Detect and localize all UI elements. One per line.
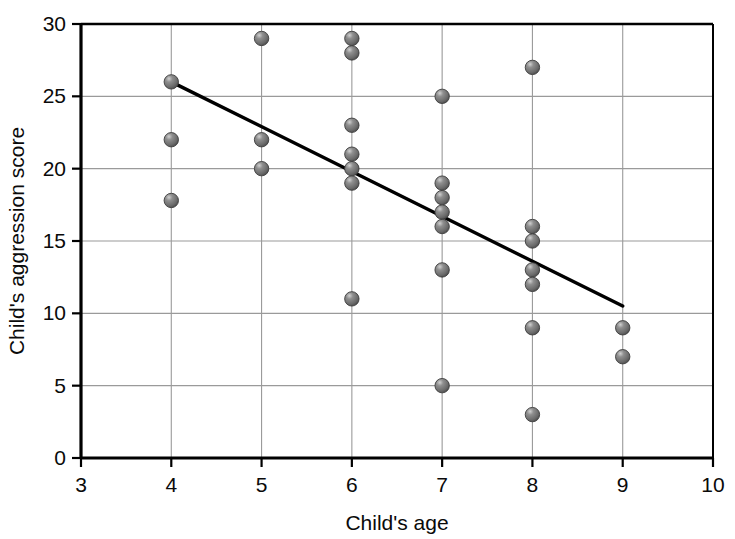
x-tick-label: 3 (75, 473, 87, 496)
scatter-plot-figure: 051015202530345678910 Child's age Child'… (0, 0, 735, 539)
data-points-group (164, 31, 630, 422)
data-point (345, 176, 359, 190)
x-tick-label: 10 (701, 473, 724, 496)
y-tick-label: 25 (43, 84, 66, 107)
data-point (345, 46, 359, 60)
data-point (525, 407, 539, 421)
x-axis-title: Child's age (345, 511, 448, 534)
data-point (435, 190, 449, 204)
data-point (435, 219, 449, 233)
plot-canvas: 051015202530345678910 Child's age Child'… (0, 0, 735, 539)
data-point (435, 378, 449, 392)
x-tick-label: 5 (256, 473, 268, 496)
data-point (345, 147, 359, 161)
tick-marks-group (72, 24, 713, 467)
x-tick-label: 7 (436, 473, 448, 496)
data-point (345, 31, 359, 45)
data-point (345, 161, 359, 175)
data-point (254, 133, 268, 147)
data-point (254, 161, 268, 175)
gridlines-group (81, 24, 713, 458)
y-tick-label: 5 (54, 374, 66, 397)
y-tick-label: 0 (54, 446, 66, 469)
data-point (525, 277, 539, 291)
data-point (435, 205, 449, 219)
data-point (254, 31, 268, 45)
x-tick-label: 6 (346, 473, 358, 496)
trendline-group (171, 82, 622, 306)
data-point (345, 118, 359, 132)
data-point (164, 133, 178, 147)
x-tick-label: 4 (165, 473, 177, 496)
y-tick-label: 10 (43, 301, 66, 324)
data-point (525, 60, 539, 74)
data-point (435, 263, 449, 277)
data-point (525, 219, 539, 233)
data-point (525, 263, 539, 277)
y-axis-title: Child's aggression score (5, 127, 28, 355)
data-point (345, 292, 359, 306)
data-point (616, 350, 630, 364)
x-tick-label: 9 (617, 473, 629, 496)
data-point (435, 89, 449, 103)
data-point (616, 321, 630, 335)
y-tick-label: 20 (43, 157, 66, 180)
y-tick-label: 15 (43, 229, 66, 252)
data-point (435, 176, 449, 190)
data-point (525, 234, 539, 248)
regression-trendline (171, 82, 622, 306)
y-tick-label: 30 (43, 12, 66, 35)
data-point (164, 75, 178, 89)
data-point (525, 321, 539, 335)
data-point (164, 193, 178, 207)
x-tick-label: 8 (527, 473, 539, 496)
